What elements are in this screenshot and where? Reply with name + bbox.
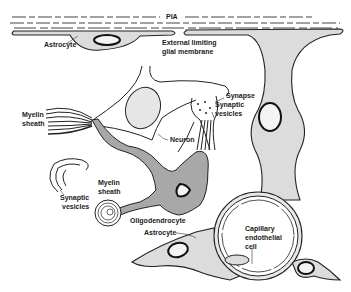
external-limiting-label-2: glial membrane [162, 48, 213, 56]
myelin-sheath-left [46, 108, 92, 134]
neuron-nucleus [120, 82, 166, 133]
synaptic-vesicle-loop [50, 159, 88, 192]
neuron-label: Neuron [170, 136, 195, 143]
synaptic-vesicles-top-label-1: Synaptic [215, 101, 244, 109]
myelin-sheath-left-label-2: sheath [22, 120, 45, 127]
pia-label: PIA [166, 13, 178, 20]
myelin-sheath-cross-section [95, 200, 121, 226]
neuroglia-diagram: PIA Astrocyte External limiting glial me… [0, 0, 351, 292]
neuron [90, 66, 229, 140]
myelin-sheath-mid-label-2: sheath [98, 188, 121, 195]
synaptic-vesicles-top-label-2: vesicles [215, 110, 242, 117]
capillary-label-3: cell [245, 243, 257, 250]
astrocyte-nucleus-bottom-right [298, 262, 314, 274]
astrocyte-top-label: Astrocyte [44, 41, 76, 49]
endothelial-nucleus [225, 255, 249, 265]
oligodendrocyte-label: Oligodendrocyte [130, 217, 186, 225]
synapse [178, 96, 218, 152]
myelin-sheath-left-label-1: Myelin [22, 111, 44, 119]
astrocyte-nucleus-top [94, 35, 120, 45]
myelin-sheath-mid-label-1: Myelin [98, 179, 120, 187]
capillary-label-2: endothelial [245, 234, 282, 241]
external-limiting-label-1: External limiting [162, 39, 216, 47]
synaptic-vesicles-left-label-1: Synaptic [60, 194, 89, 202]
capillary-label-1: Capillary [245, 225, 275, 233]
astrocyte-bottom-label: Astrocyte [144, 229, 176, 237]
astrocyte-nucleus-right [259, 103, 281, 131]
synapse-label: Synapse [226, 92, 255, 100]
synaptic-vesicles-left-label-2: vesicles [62, 203, 89, 210]
